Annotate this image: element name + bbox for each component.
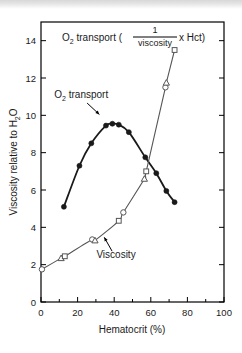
data-point-marker (154, 171, 159, 176)
data-point-marker (39, 267, 44, 272)
y-axis-title: Viscosity relative to H2O (8, 108, 21, 215)
x-tick-label: 100 (216, 307, 232, 318)
data-point-marker (77, 163, 82, 168)
viscosity-label-lead: Viscosity (96, 249, 135, 260)
y-tick-label: 2 (31, 259, 36, 270)
data-point-marker (144, 169, 149, 174)
y-tick-label: 14 (25, 35, 36, 46)
data-point-marker (121, 210, 126, 215)
y-tick-label: 0 (31, 297, 36, 308)
x-tick-label: 80 (182, 307, 193, 318)
y-axis-title-tail: O (8, 108, 19, 116)
title-lead-tail: transport ( (74, 32, 123, 43)
data-point-marker (103, 123, 108, 128)
figure-root: 020406080100 02468101214 O2 transportVis… (0, 0, 242, 353)
title-fraction-denominator: viscosity (138, 38, 173, 48)
data-point-marker (172, 200, 177, 205)
data-point-marker (110, 121, 115, 126)
viscosity-label-text: Viscosity (96, 249, 135, 260)
o2-transport-label-tail: transport (66, 89, 108, 100)
y-tick-label: 8 (31, 147, 36, 158)
x-tick-label: 60 (146, 307, 157, 318)
x-tick-label: 20 (72, 307, 83, 318)
y-tick-label: 10 (25, 110, 36, 121)
data-point-marker (116, 218, 121, 223)
data-point-marker (143, 155, 148, 160)
title-tail: x Hct) (179, 32, 205, 43)
y-axis-title-lead: Viscosity relative to H (8, 120, 19, 215)
y-tick-label: 4 (31, 222, 36, 233)
title-fraction-numerator: 1 (152, 25, 157, 35)
data-point-marker (61, 204, 66, 209)
data-point-marker (172, 48, 177, 53)
data-point-marker (89, 141, 94, 146)
data-point-marker (126, 130, 131, 135)
y-tick-label: 6 (31, 185, 36, 196)
hematocrit-chart: 020406080100 02468101214 O2 transportVis… (0, 0, 242, 353)
x-axis-tick-labels: 020406080100 (38, 307, 232, 318)
data-point-marker (62, 254, 67, 259)
y-tick-label: 12 (25, 73, 36, 84)
x-axis-title: Hematocrit (%) (99, 324, 166, 335)
data-point-marker (116, 122, 121, 127)
data-point-marker (164, 188, 169, 193)
y-axis-tick-labels: 02468101214 (25, 35, 36, 307)
x-tick-label: 0 (38, 307, 43, 318)
x-tick-label: 40 (109, 307, 120, 318)
